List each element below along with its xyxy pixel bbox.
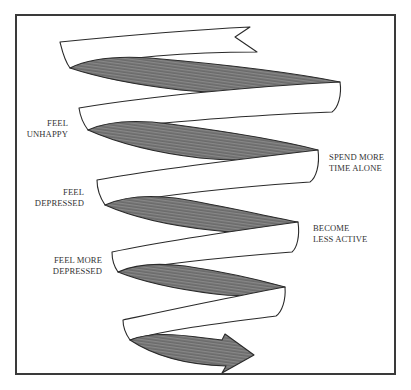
ribbon-band-5	[123, 287, 285, 340]
label-feel-more-depressed: FEEL MORE DEPRESSED	[30, 255, 102, 277]
arrow-right-icon	[130, 334, 254, 373]
label-feel-unhappy: FEEL UNHAPPY	[20, 118, 68, 140]
label-spend-more-time-alone: SPEND MORE TIME ALONE	[329, 152, 384, 174]
label-feel-depressed: FEEL DEPRESSED	[20, 187, 84, 209]
label-become-less-active: BECOME LESS ACTIVE	[313, 223, 367, 245]
ribbon-shade-4	[118, 264, 285, 295]
